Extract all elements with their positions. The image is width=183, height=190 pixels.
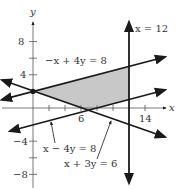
label-x-minus-4y: x − 4y = 8 xyxy=(43,143,97,154)
leader-x-plus-3y xyxy=(97,121,111,159)
x-axis-label: x xyxy=(169,102,175,113)
vertex-point xyxy=(30,89,35,94)
label-neg-x-plus-4y: −x + 4y = 8 xyxy=(45,55,107,66)
tick-label-m8: −8 xyxy=(13,169,28,180)
leader-x-minus-4y xyxy=(51,122,55,143)
chart-canvas: y x 8 4 −4 −8 6 14 −x + 4y = 8 x = 12 x … xyxy=(0,0,183,190)
tick-label-m4: −4 xyxy=(13,136,28,147)
tick-label-8: 8 xyxy=(18,36,24,47)
label-x-plus-3y: x + 3y = 6 xyxy=(64,158,118,169)
tick-label-4: 4 xyxy=(20,69,26,80)
tick-label-6: 6 xyxy=(78,113,84,124)
tick-label-14: 14 xyxy=(139,113,152,124)
label-x-eq-12: x = 12 xyxy=(135,23,168,34)
y-axis-label: y xyxy=(29,6,36,17)
